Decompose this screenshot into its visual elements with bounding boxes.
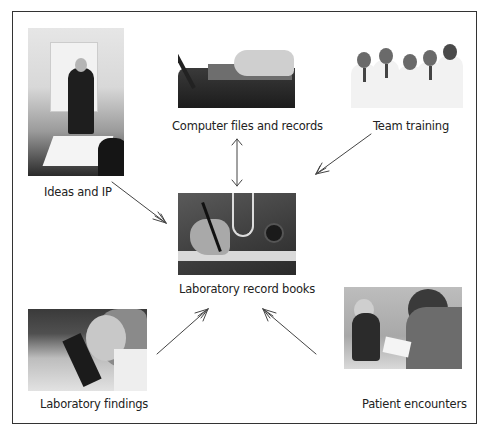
arrows-layer [0, 0, 489, 438]
arrow-team-to-books [316, 134, 371, 174]
arrow-ideas-to-books [112, 182, 166, 223]
arrow-findings-to-books [157, 309, 208, 354]
arrow-computer-books-bidirectional [232, 139, 242, 186]
arrow-patient-to-books [263, 309, 316, 354]
